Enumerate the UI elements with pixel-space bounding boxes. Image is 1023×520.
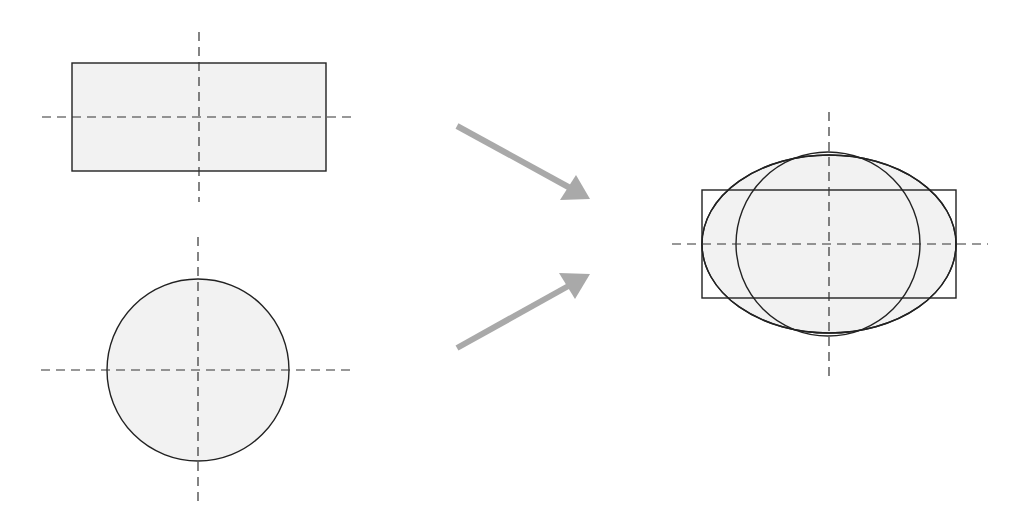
diagram-canvas [0, 0, 1023, 520]
input-circle-group [41, 237, 356, 503]
output-composite-group [672, 112, 988, 377]
arrow-up-right [457, 273, 590, 348]
input-rectangle-group [42, 32, 356, 202]
arrow-shaft [457, 284, 572, 348]
arrow-shaft [457, 126, 572, 189]
arrow-down-right [457, 126, 590, 200]
